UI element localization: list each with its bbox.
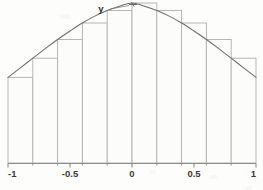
x-axis-tick-label: 0 xyxy=(129,168,134,179)
x-axis-ticks xyxy=(8,164,256,168)
riemann-bar xyxy=(206,39,231,163)
riemann-bar xyxy=(132,3,157,163)
riemann-bar xyxy=(182,23,207,163)
x-axis-tick-label: -1 xyxy=(8,168,17,179)
x-axis-tick-label: -0.5 xyxy=(62,168,79,179)
x-axis-tick-label: 1 xyxy=(251,168,257,179)
riemann-bar xyxy=(82,23,107,163)
riemann-bar xyxy=(8,77,33,163)
curve-label-y: y xyxy=(98,3,104,14)
riemann-bar xyxy=(58,39,83,163)
x-axis-tick-labels: -1-0.500.51 xyxy=(8,168,257,179)
x-axis-tick-label: 0.5 xyxy=(187,168,201,179)
riemann-bars-group xyxy=(8,3,256,163)
riemann-sum-plot: -1-0.500.51 y xyxy=(0,0,263,190)
riemann-bar xyxy=(107,11,132,163)
riemann-bar xyxy=(157,11,182,163)
riemann-sum-figure: -1-0.500.51 y xyxy=(0,0,263,190)
riemann-bar xyxy=(33,58,58,163)
